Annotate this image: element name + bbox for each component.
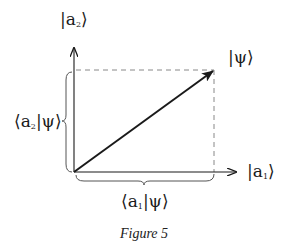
x-axis-label: |a1⟩ [247, 163, 275, 181]
psi-vector-label: |ψ⟩ [228, 49, 254, 66]
x-component-brace [76, 174, 214, 185]
x-component-label: ⟨a1|ψ⟩ [121, 193, 169, 211]
y-component-label: ⟨a2|ψ⟩ [14, 113, 62, 131]
y-axis-label: |a2⟩ [60, 11, 88, 29]
y-component-brace [62, 72, 72, 172]
psi-vector [74, 71, 213, 172]
figure-caption: Figure 5 [0, 226, 288, 242]
